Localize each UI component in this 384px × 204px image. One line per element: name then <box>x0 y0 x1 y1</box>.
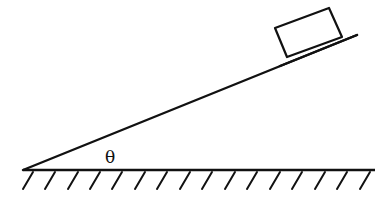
inclined-plane-diagram: θ <box>0 0 384 204</box>
angle-theta-label: θ <box>105 147 115 167</box>
block <box>275 8 342 57</box>
ground-hatching <box>23 172 370 189</box>
